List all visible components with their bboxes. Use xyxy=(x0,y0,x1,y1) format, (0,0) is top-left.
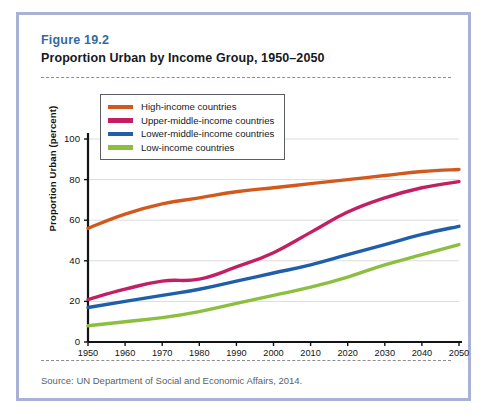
chart-svg xyxy=(19,15,474,360)
legend-item-label: Lower-middle-income countries xyxy=(141,128,274,139)
x-tick-label: 2000 xyxy=(254,348,294,358)
legend-swatch-icon xyxy=(108,118,133,123)
x-tick-label: 1950 xyxy=(68,348,108,358)
y-tick-label: 0 xyxy=(52,336,80,347)
legend-swatch-icon xyxy=(108,132,133,137)
legend-swatch-icon xyxy=(108,145,133,150)
source-note: Source: UN Department of Social and Econ… xyxy=(41,375,302,386)
legend-item-label: Low-income countries xyxy=(141,142,234,153)
x-tick-label: 2040 xyxy=(402,348,442,358)
x-tick-label: 2050 xyxy=(439,348,479,358)
y-tick-label: 60 xyxy=(52,214,80,225)
series-line xyxy=(88,169,459,228)
x-tick-label: 1970 xyxy=(142,348,182,358)
y-tick-label: 20 xyxy=(52,295,80,306)
y-tick-label: 100 xyxy=(52,133,80,144)
figure-frame: Figure 19.2 Proportion Urban by Income G… xyxy=(16,12,471,401)
x-tick-label: 2020 xyxy=(328,348,368,358)
divider-bottom xyxy=(41,360,451,361)
x-tick-label: 1980 xyxy=(179,348,219,358)
legend-swatch-icon xyxy=(108,105,133,110)
x-tick-label: 2030 xyxy=(365,348,405,358)
x-tick-label: 2010 xyxy=(291,348,331,358)
legend-item-label: Upper-middle-income countries xyxy=(141,115,274,126)
y-tick-label: 40 xyxy=(52,255,80,266)
x-tick-label: 1990 xyxy=(216,348,256,358)
chart-plot-area: Proportion Urban (percent) 0204060801001… xyxy=(19,15,474,360)
legend-item: High-income countries xyxy=(108,100,274,114)
x-tick-label: 1960 xyxy=(105,348,145,358)
legend-item: Upper-middle-income countries xyxy=(108,114,274,128)
legend-item: Lower-middle-income countries xyxy=(108,127,274,141)
legend-item-label: High-income countries xyxy=(141,101,236,112)
y-tick-label: 80 xyxy=(52,174,80,185)
chart-legend: High-income countriesUpper-middle-income… xyxy=(100,94,285,160)
legend-item: Low-income countries xyxy=(108,141,274,155)
figure-inner: Figure 19.2 Proportion Urban by Income G… xyxy=(19,15,468,398)
